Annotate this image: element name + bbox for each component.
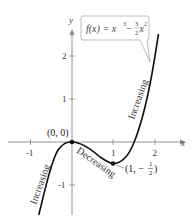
y-tick-label-1: 1 <box>62 94 67 104</box>
y-axis-arrow-icon <box>70 29 75 35</box>
min-point-label: (1, − 1 2 ) <box>125 160 157 177</box>
x-tick-label-2: 2 <box>153 148 158 158</box>
origin-point-label: (0, 0) <box>47 127 69 139</box>
origin-point-marker <box>70 140 75 145</box>
svg-text:): ) <box>154 163 157 175</box>
x-tick-label-1: 1 <box>111 148 116 158</box>
y-axis-label: y <box>68 15 73 25</box>
y-tick-label-neg1: -1 <box>58 180 66 190</box>
increasing-left-label: Increasing <box>28 163 53 206</box>
svg-text:2: 2 <box>144 21 147 27</box>
x-axis-label: x <box>180 138 185 148</box>
function-graph: -1 1 2 1 2 -1 x y (0, 0) (1, − 1 2 ) Inc… <box>0 0 193 219</box>
function-callout: f(x) = x 3 − 3 2 x 2 <box>81 16 150 62</box>
svg-text:f(x) = x: f(x) = x <box>86 23 117 35</box>
x-tick-label-neg1: -1 <box>26 148 34 158</box>
svg-text:(1, −: (1, − <box>125 163 144 175</box>
svg-text:1: 1 <box>149 160 153 168</box>
svg-text:2: 2 <box>135 29 138 36</box>
min-point-leader <box>116 165 124 168</box>
svg-text:3: 3 <box>135 20 138 27</box>
function-curve <box>39 34 159 215</box>
svg-text:2: 2 <box>149 169 153 177</box>
svg-text:−: − <box>126 23 132 34</box>
y-tick-label-2: 2 <box>62 51 67 61</box>
